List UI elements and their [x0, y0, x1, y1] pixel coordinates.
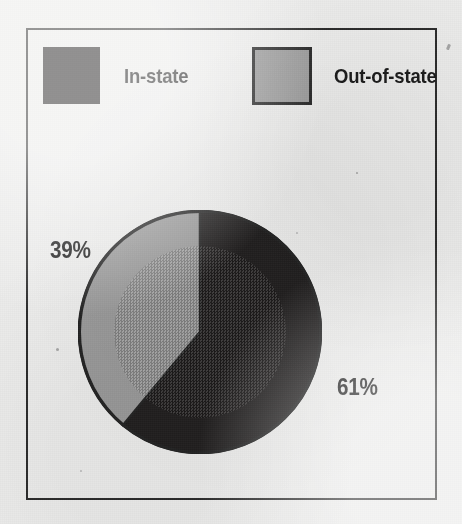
- slice-value-label-out-of-state: 39%: [50, 237, 91, 264]
- legend-swatch-out-of-state: [252, 47, 312, 105]
- slice-value-label-in-state: 61%: [337, 374, 378, 401]
- legend-label-in-state: In-state: [124, 64, 188, 88]
- legend-label-out-of-state: Out-of-state: [334, 64, 437, 88]
- pie-chart: [78, 210, 322, 454]
- legend-swatch-in-state: [43, 47, 100, 104]
- scan-speck: [446, 44, 451, 51]
- chart-page: In-state Out-of-state 39% 61%: [0, 0, 462, 524]
